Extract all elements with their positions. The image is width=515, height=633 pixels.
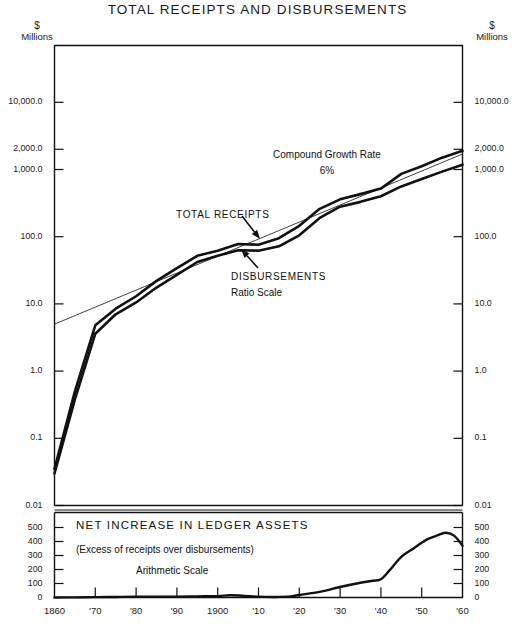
ytick-label-upper-left-0: 0.01 xyxy=(25,501,42,510)
chart-root: TOTAL RECEIPTS AND DISBURSEMENTS $ Milli… xyxy=(0,0,515,633)
ytick-label-lower-right-1: 100 xyxy=(475,579,490,588)
ytick-label-lower-left-1: 100 xyxy=(28,579,43,588)
ytick-label-lower-left-0: 0 xyxy=(38,593,43,602)
ytick-label-lower-right-2: 200 xyxy=(475,565,490,574)
ytick-label-upper-right-4: 100.0 xyxy=(475,232,497,241)
ytick-label-upper-left-5: 1,000.0 xyxy=(13,165,42,174)
plot-frames xyxy=(55,46,463,598)
ytick-label-upper-left-2: 1.0 xyxy=(30,366,42,375)
ytick-label-upper-right-2: 1.0 xyxy=(475,366,487,375)
ytick-label-lower-right-5: 500 xyxy=(475,523,490,532)
ytick-label-upper-right-5: 1,000.0 xyxy=(475,165,504,174)
xtick-label-8: '40 xyxy=(359,606,403,616)
xtick-label-4: 1900 xyxy=(196,606,240,616)
ytick-label-upper-left-7: 10,000.0 xyxy=(8,97,42,106)
ytick-label-lower-left-5: 500 xyxy=(28,523,43,532)
xtick-label-7: '30 xyxy=(318,606,362,616)
annotation-disbursements: DISBURSEMENTS xyxy=(231,270,326,283)
ytick-label-upper-right-6: 2,000.0 xyxy=(475,144,504,153)
lower-panel-scale-note: Arithmetic Scale xyxy=(136,564,208,577)
ytick-label-upper-left-6: 2,000.0 xyxy=(13,144,42,153)
xtick-label-3: '90 xyxy=(155,606,199,616)
ytick-label-upper-left-1: 0.1 xyxy=(30,433,42,442)
ytick-label-lower-right-4: 400 xyxy=(475,537,490,546)
ytick-label-upper-right-3: 10.0 xyxy=(475,299,492,308)
ytick-label-upper-right-1: 0.1 xyxy=(475,433,487,442)
xtick-label-1: '70 xyxy=(73,606,117,616)
upper-panel-series xyxy=(55,151,463,474)
xtick-label-6: '20 xyxy=(277,606,321,616)
ytick-label-lower-right-3: 300 xyxy=(475,551,490,560)
xtick-label-10: '60 xyxy=(441,606,485,616)
xtick-label-0: 1860 xyxy=(33,606,77,616)
lower-panel-subtitle: (Excess of receipts over disbursements) xyxy=(76,543,254,556)
ytick-label-lower-right-0: 0 xyxy=(475,593,480,602)
ytick-label-lower-left-4: 400 xyxy=(28,537,43,546)
annotation-compound-growth-rate: Compound Growth Rate xyxy=(262,148,392,161)
xtick-label-5: '10 xyxy=(237,606,281,616)
ytick-label-upper-right-7: 10,000.0 xyxy=(475,97,509,106)
ytick-label-upper-right-0: 0.01 xyxy=(475,501,492,510)
xtick-label-2: '80 xyxy=(114,606,158,616)
ytick-label-upper-left-3: 10.0 xyxy=(25,299,42,308)
annotation-ratio-scale: Ratio Scale xyxy=(231,286,282,299)
ytick-label-lower-left-2: 200 xyxy=(28,565,43,574)
lower-panel-title: NET INCREASE IN LEDGER ASSETS xyxy=(76,519,309,532)
annotation-total-receipts: TOTAL RECEIPTS xyxy=(176,208,270,221)
ytick-label-lower-left-3: 300 xyxy=(28,551,43,560)
xtick-label-9: '50 xyxy=(400,606,444,616)
ytick-label-upper-left-4: 100.0 xyxy=(20,232,42,241)
annotation-growth-rate-value: 6% xyxy=(262,164,392,177)
chart-canvas xyxy=(0,0,515,633)
